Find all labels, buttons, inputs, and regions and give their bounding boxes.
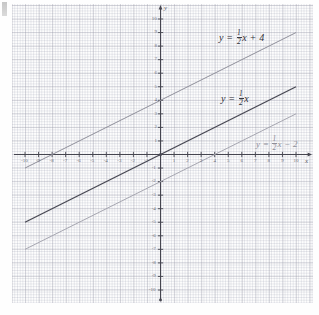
label-3-fraction: 1 2	[272, 135, 277, 151]
label-2-y: y	[221, 93, 226, 104]
label-1-equals: =	[226, 32, 233, 43]
y-tick-label-4: 4	[155, 97, 158, 102]
y-tick-label-3: 3	[155, 111, 158, 116]
plot-svg	[12, 4, 313, 303]
y-tick-label--4: -4	[152, 206, 156, 211]
x-tick-label--5: -5	[90, 158, 94, 163]
x-tick-label--9: -9	[36, 158, 40, 163]
x-tick-label-3: 3	[200, 158, 203, 163]
x-tick-label--7: -7	[63, 158, 67, 163]
y-tick-label-1: 1	[155, 138, 158, 143]
coordinate-plane: -10-9-8-7-6-5-4-3-2-112345678910-10-9-8-…	[12, 4, 313, 303]
x-tick-label-7: 7	[254, 158, 257, 163]
y-tick-label--5: -5	[152, 219, 156, 224]
label-line-y-half-x: y = 1 2 x	[221, 90, 249, 106]
corner-marker	[2, 2, 7, 16]
x-tick-label-8: 8	[268, 158, 271, 163]
label-1-denominator: 2	[237, 38, 242, 46]
label-3-denominator: 2	[272, 144, 277, 152]
x-tick-label-10: 10	[293, 158, 298, 163]
x-tick-label-4: 4	[213, 158, 216, 163]
x-tick-label--4: -4	[104, 158, 108, 163]
label-1-fraction: 1 2	[237, 29, 242, 45]
y-tick-label-2: 2	[155, 124, 158, 129]
y-tick-label-7: 7	[155, 56, 158, 61]
label-3-equals: =	[263, 139, 269, 149]
y-tick-label-6: 6	[155, 70, 158, 75]
x-tick-label--2: -2	[131, 158, 135, 163]
x-axis-label: x	[305, 157, 308, 165]
y-axis-bottom-dot	[159, 299, 162, 302]
label-1-tail: + 4	[249, 32, 264, 43]
y-tick-label-9: 9	[155, 29, 158, 34]
y-tick-label--8: -8	[152, 260, 156, 265]
y-tick-label--3: -3	[152, 192, 156, 197]
y-axis-arrow	[159, 5, 163, 9]
label-line-y-half-x-plus-4: y = 1 2 x + 4	[219, 29, 264, 45]
x-tick-label-2: 2	[186, 158, 189, 163]
y-tick-label--10: -10	[149, 287, 156, 292]
label-1-variable: x	[242, 32, 247, 43]
y-tick-label--7: -7	[152, 246, 156, 251]
x-tick-label--1: -1	[144, 158, 148, 163]
graph-figure: -10-9-8-7-6-5-4-3-2-112345678910-10-9-8-…	[0, 0, 319, 315]
y-axis-label: y	[164, 4, 167, 12]
label-2-fraction: 1 2	[239, 90, 244, 106]
x-axis-arrow	[308, 153, 312, 157]
y-tick-label--2: -2	[152, 178, 156, 183]
y-tick-label--9: -9	[152, 273, 156, 278]
label-3-tail: − 2	[284, 139, 297, 149]
label-2-denominator: 2	[239, 99, 244, 107]
y-tick-label-10: 10	[152, 16, 157, 21]
y-tick-label-5: 5	[155, 84, 158, 89]
label-line-y-half-x-minus-2: y = 1 2 x − 2	[256, 135, 298, 151]
label-3-variable: x	[278, 139, 282, 149]
x-tick-label-1: 1	[173, 158, 176, 163]
x-tick-label-5: 5	[227, 158, 230, 163]
x-tick-label--10: -10	[21, 158, 28, 163]
y-tick-label-8: 8	[155, 43, 158, 48]
x-tick-label-9: 9	[281, 158, 284, 163]
label-3-y: y	[256, 139, 260, 149]
x-tick-label--6: -6	[77, 158, 81, 163]
x-tick-label-6: 6	[241, 158, 244, 163]
x-tick-label--8: -8	[50, 158, 54, 163]
x-tick-label--3: -3	[117, 158, 121, 163]
label-1-y: y	[219, 32, 224, 43]
y-tick-label--6: -6	[152, 233, 156, 238]
y-tick-label--1: -1	[152, 165, 156, 170]
label-2-variable: x	[244, 93, 249, 104]
label-2-equals: =	[228, 93, 235, 104]
